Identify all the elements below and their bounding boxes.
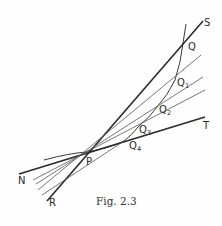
label-Q4: Q4 bbox=[129, 140, 141, 153]
secant-line-PQ1 bbox=[38, 55, 201, 190]
curve bbox=[44, 24, 186, 160]
label-R: R bbox=[49, 197, 56, 208]
figure-canvas: S Q Q1 Q2 Q3 Q4 T P N R Fig. 2.3 bbox=[0, 0, 222, 226]
label-Q2: Q2 bbox=[159, 104, 171, 117]
secant-tangent-diagram: S Q Q1 Q2 Q3 Q4 T P N R Fig. 2.3 bbox=[0, 0, 222, 226]
label-Q1: Q1 bbox=[177, 77, 189, 90]
label-S: S bbox=[204, 17, 210, 28]
secant-line-PQ3 bbox=[33, 90, 205, 180]
label-P: P bbox=[86, 156, 92, 167]
figure-caption: Fig. 2.3 bbox=[96, 195, 137, 207]
label-Q: Q bbox=[188, 41, 196, 52]
secant-line-PQ2 bbox=[36, 77, 203, 184]
secant-line-PQ4 bbox=[42, 141, 124, 195]
label-T: T bbox=[202, 120, 210, 131]
label-N: N bbox=[18, 175, 25, 186]
secant-line-PQ bbox=[47, 21, 203, 201]
